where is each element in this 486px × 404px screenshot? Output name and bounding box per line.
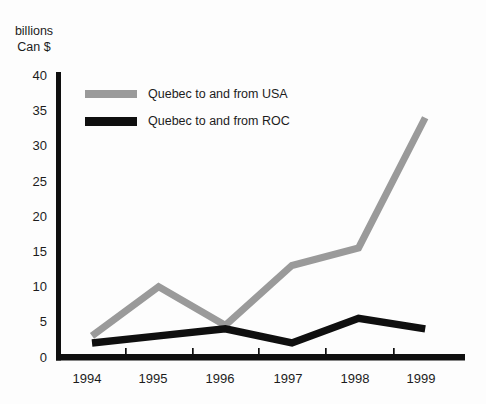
y-axis-line xyxy=(56,72,61,361)
usa-series-swatch xyxy=(85,90,137,98)
line-chart: 0510152025303540199419951996199719981999 xyxy=(0,0,486,404)
x-axis-line xyxy=(56,354,465,361)
x-tick-label: 1997 xyxy=(274,371,303,386)
legend-item-roc: Quebec to and from ROC xyxy=(85,113,290,129)
y-tick-label: 15 xyxy=(33,244,47,259)
x-axis-tick xyxy=(393,348,395,354)
x-axis-tick xyxy=(192,348,194,354)
series-line-roc xyxy=(92,318,425,343)
roc-series-label: Quebec to and from ROC xyxy=(148,114,290,128)
y-tick-label: 5 xyxy=(40,314,47,329)
x-tick-label: 1999 xyxy=(407,371,436,386)
roc-series-swatch xyxy=(85,117,137,126)
y-tick-label: 20 xyxy=(33,209,47,224)
y-tick-label: 25 xyxy=(33,174,47,189)
x-tick-label: 1995 xyxy=(139,371,168,386)
x-tick-label: 1996 xyxy=(206,371,235,386)
x-axis-tick xyxy=(258,348,260,354)
y-tick-label: 10 xyxy=(33,279,47,294)
chart-canvas: billions Can $ 0510152025303540199419951… xyxy=(0,0,486,404)
x-tick-label: 1998 xyxy=(341,371,370,386)
y-tick-label: 35 xyxy=(33,103,47,118)
x-axis-tick xyxy=(325,348,327,354)
series-line-usa xyxy=(92,118,425,336)
legend: Quebec to and from USA Quebec to and fro… xyxy=(85,86,290,129)
legend-item-usa: Quebec to and from USA xyxy=(85,86,290,102)
x-tick-label: 1994 xyxy=(73,371,102,386)
x-axis-tick xyxy=(125,348,127,354)
y-tick-label: 0 xyxy=(40,350,47,365)
usa-series-label: Quebec to and from USA xyxy=(148,87,288,101)
y-tick-label: 30 xyxy=(33,138,47,153)
y-tick-label: 40 xyxy=(33,68,47,83)
